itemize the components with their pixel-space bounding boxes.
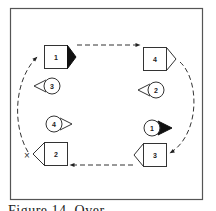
circle-1-label: 1 — [150, 125, 154, 132]
circle-4-label: 4 — [52, 121, 56, 128]
circle-2-label: 2 — [154, 87, 158, 94]
box-player-3: 3 — [134, 144, 167, 167]
circle-3-label: 3 — [50, 83, 54, 90]
box-3-label: 3 — [153, 152, 157, 159]
open-pointer-icon — [167, 48, 177, 71]
box-player-4: 4 — [144, 48, 177, 71]
box-player-1: 1 — [45, 46, 77, 69]
path-left-arrow — [18, 57, 37, 152]
filled-pointer-icon — [68, 46, 77, 69]
circle-player-1: 1 — [144, 120, 172, 136]
open-pointer-icon — [134, 144, 144, 167]
path-right-arrow — [170, 62, 194, 153]
rotation-diagram: × 1 4 3 2 3 2 4 — [0, 0, 216, 211]
box-1-label: 1 — [54, 54, 58, 61]
circle-player-2: 2 — [138, 82, 164, 98]
box-player-2: 2 — [33, 143, 68, 166]
circle-player-4: 4 — [46, 116, 72, 132]
open-pointer-icon — [33, 143, 45, 166]
box-4-label: 4 — [153, 56, 157, 63]
circle-player-3: 3 — [34, 78, 60, 94]
figure-caption: Figure 14. Over — [8, 203, 105, 211]
box-2-label: 2 — [54, 151, 58, 158]
court-frame — [11, 9, 203, 200]
start-marker: × — [24, 150, 30, 161]
